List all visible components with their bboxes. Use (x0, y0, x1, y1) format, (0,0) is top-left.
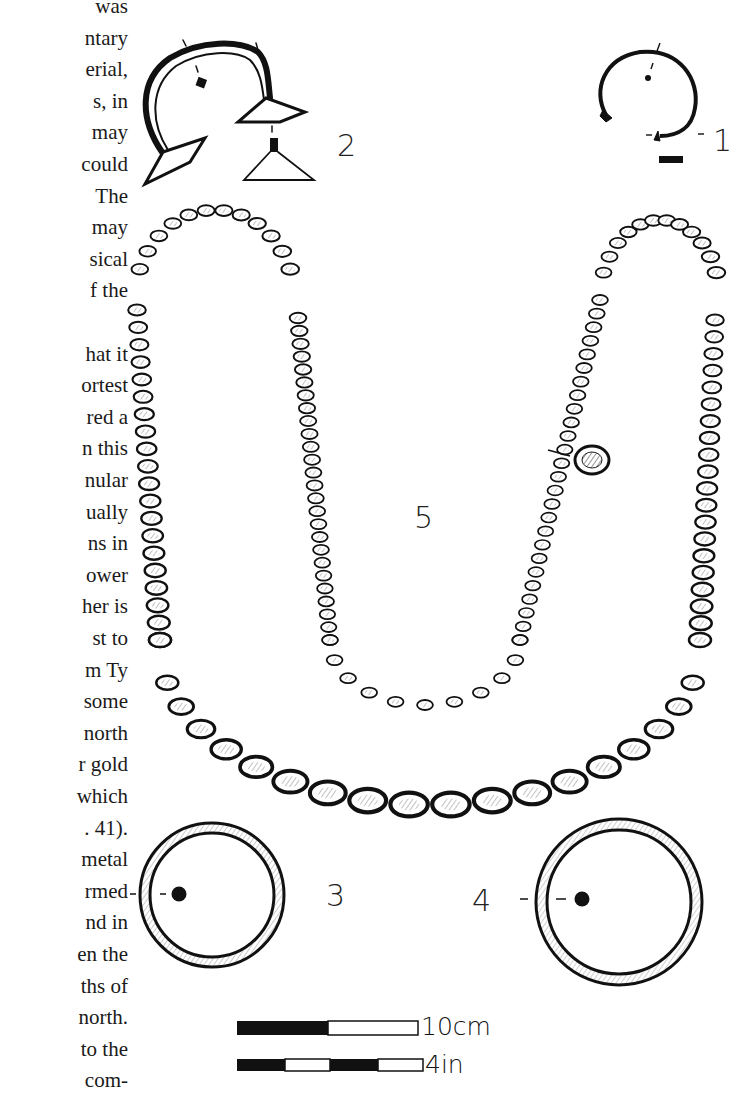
item-1-bracelet-drawing (600, 43, 704, 163)
scale-label-imperial: 4in (425, 1052, 464, 1078)
label-item-2: 2 (337, 131, 356, 161)
label-item-5: 5 (414, 503, 433, 533)
scale-label-metric: 10cm (421, 1014, 491, 1040)
item-2-torc-drawing (145, 40, 314, 184)
label-item-4: 4 (472, 886, 491, 916)
label-item-1: 1 (713, 126, 732, 156)
scale-bar-4in (237, 1059, 423, 1071)
item-4-ring-drawing (520, 819, 702, 985)
scale-bar-10cm (237, 1021, 418, 1035)
artifact-figure: 2 1 5 3 4 10cm 4in (0, 0, 753, 1108)
item-3-ring-drawing (130, 823, 284, 967)
label-item-3: 3 (326, 881, 345, 911)
figure-drawing (0, 0, 753, 1108)
